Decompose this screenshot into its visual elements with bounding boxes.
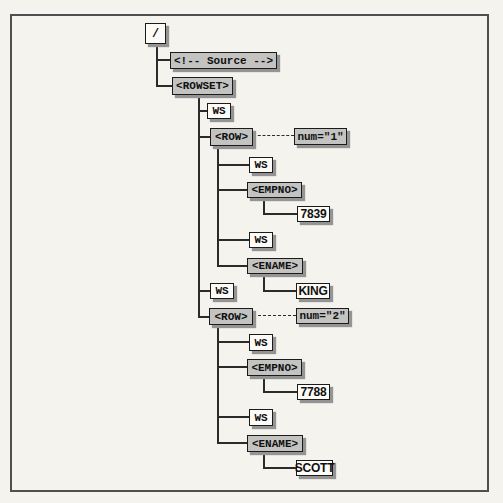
connector-to-ws3: [217, 239, 249, 241]
node-empno-1: <EMPNO>: [247, 182, 302, 198]
node-ws-6: WS: [249, 409, 273, 426]
connector-to-row1: [198, 136, 210, 138]
node-ws-1: WS: [207, 103, 231, 119]
node-attr-num-1: num="1": [294, 128, 347, 145]
connector-to-empno2: [217, 366, 247, 368]
connector-empno1-trunk: [263, 198, 265, 214]
attribute-link-num1: [253, 135, 294, 136]
connector-ename1-trunk: [263, 274, 265, 291]
connector-to-7788: [263, 391, 297, 393]
node-value-7788: 7788: [297, 384, 330, 400]
connector-to-7839: [263, 213, 297, 215]
connector-row2-trunk: [217, 325, 219, 443]
node-value-scott: SCOTT: [296, 460, 333, 476]
node-ws-5: WS: [249, 334, 273, 351]
connector-to-ws5: [217, 341, 249, 343]
node-comment-source: <!-- Source -->: [170, 52, 277, 69]
connector-to-ws6: [217, 416, 249, 418]
connector-to-ws1: [198, 110, 207, 112]
connector-to-ename1: [217, 265, 247, 267]
node-row-2: <ROW>: [209, 308, 253, 325]
node-ename-2: <ENAME>: [247, 435, 303, 452]
node-ws-3: WS: [249, 232, 273, 248]
node-row-1: <ROW>: [210, 128, 253, 146]
connector-to-scott: [263, 467, 296, 469]
connector-to-row2: [198, 316, 209, 318]
connector-empno2-trunk: [263, 376, 265, 392]
node-document-root: /: [145, 23, 166, 44]
node-value-king: KING: [296, 283, 330, 299]
connector-to-ename2: [217, 442, 247, 444]
connector-rowset-trunk: [198, 95, 200, 317]
connector-root-trunk: [156, 44, 158, 86]
dom-tree-figure: / <!-- Source --> <ROWSET> WS <ROW> num=…: [0, 0, 503, 503]
connector-to-empno1: [217, 189, 247, 191]
node-ename-1: <ENAME>: [247, 258, 303, 274]
node-rowset: <ROWSET>: [172, 77, 233, 95]
connector-to-ws2: [217, 164, 249, 166]
node-attr-num-2: num="2": [296, 308, 349, 324]
node-ws-2: WS: [249, 157, 273, 173]
attribute-link-num2: [253, 315, 296, 316]
node-empno-2: <EMPNO>: [247, 359, 302, 376]
node-value-7839: 7839: [297, 206, 330, 222]
connector-ename2-trunk: [263, 452, 265, 468]
connector-to-comment: [156, 59, 170, 61]
node-ws-4: WS: [210, 283, 234, 299]
connector-to-ws4: [198, 290, 210, 292]
connector-to-rowset: [156, 85, 172, 87]
connector-to-king: [263, 290, 296, 292]
